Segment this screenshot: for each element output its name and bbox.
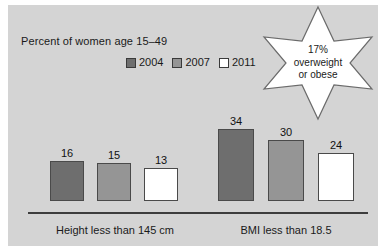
bar-height-2007[interactable]: [97, 163, 131, 201]
bar-height-2004[interactable]: [50, 161, 84, 201]
category-label-height: Height less than 145 cm: [30, 224, 200, 236]
bar-group-bmi-2004: 34: [218, 61, 254, 201]
bar-group-height-2007: 15: [97, 81, 131, 201]
bar-group-bmi-2007: 30: [268, 61, 304, 201]
bar-bmi-2011[interactable]: [318, 153, 354, 201]
bar-value-bmi-2011: 24: [318, 140, 354, 151]
bar-group-height: 16: [50, 81, 84, 201]
chart-figure: Percent of women age 15–49 2004 2007 201…: [0, 0, 386, 252]
bar-value-height-2007: 15: [97, 150, 131, 161]
bar-bmi-2004[interactable]: [218, 129, 254, 201]
bar-group-height-2011: 13: [144, 81, 178, 201]
plot-area: 16 15 13 34 30 24 Height less than 145 c…: [8, 5, 378, 246]
bar-height-2011[interactable]: [144, 168, 178, 201]
bar-group-bmi-2011: 24: [318, 61, 354, 201]
bar-bmi-2007[interactable]: [268, 140, 304, 201]
axis-baseline: [28, 212, 368, 214]
bar-value-bmi-2007: 30: [268, 127, 304, 138]
category-label-bmi: BMI less than 18.5: [206, 224, 366, 236]
bar-value-height-2004: 16: [50, 148, 84, 159]
bar-value-height-2011: 13: [144, 155, 178, 166]
bar-value-bmi-2004: 34: [218, 116, 254, 127]
